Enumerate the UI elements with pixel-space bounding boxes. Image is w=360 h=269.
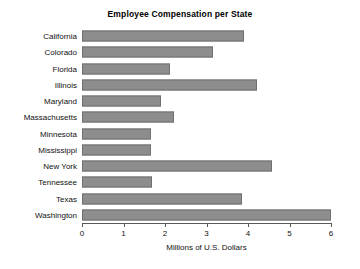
bar (82, 63, 170, 74)
category-label: Maryland (44, 97, 77, 106)
plot-area: CaliforniaColoradoFloridaIllinoisMarylan… (82, 28, 331, 223)
category-label: Washington (35, 210, 77, 219)
x-tick-mark (124, 223, 125, 227)
bar (82, 177, 152, 188)
bar-chart: Employee Compensation per State Californ… (0, 0, 360, 269)
bar-row: Mississippi (82, 142, 331, 158)
bar-row: Minnesota (82, 126, 331, 142)
category-label: Mississippi (38, 145, 77, 154)
category-label: Tennessee (38, 178, 77, 187)
category-label: Colorado (45, 48, 77, 57)
bar (82, 161, 272, 172)
bar (82, 47, 213, 58)
category-label: Minnesota (40, 129, 77, 138)
bar-row: New York (82, 158, 331, 174)
x-tick-label: 4 (246, 229, 250, 238)
x-tick-mark (331, 223, 332, 227)
x-tick-mark (165, 223, 166, 227)
category-label: Florida (53, 64, 77, 73)
x-tick-label: 2 (163, 229, 167, 238)
category-label: Texas (56, 194, 77, 203)
category-label: Massachusetts (24, 113, 77, 122)
bar-row: Maryland (82, 93, 331, 109)
x-tick-label: 5 (287, 229, 291, 238)
bar (82, 209, 331, 220)
bar-row: Tennessee (82, 174, 331, 190)
category-label: Illinois (55, 80, 77, 89)
category-label: California (43, 32, 77, 41)
x-tick-label: 3 (204, 229, 208, 238)
x-tick-label: 1 (121, 229, 125, 238)
category-label: New York (43, 162, 77, 171)
x-tick-mark (290, 223, 291, 227)
bar-row: Illinois (82, 77, 331, 93)
bar-row: Florida (82, 61, 331, 77)
bar (82, 193, 242, 204)
x-tick-mark (248, 223, 249, 227)
x-tick-mark (207, 223, 208, 227)
x-tick-label: 6 (329, 229, 333, 238)
bar-row: Washington (82, 207, 331, 223)
bar (82, 96, 161, 107)
bar-row: Colorado (82, 44, 331, 60)
bar (82, 79, 257, 90)
x-axis-title: Millions of U.S. Dollars (82, 243, 331, 252)
chart-title: Employee Compensation per State (0, 9, 360, 19)
bar-row: Texas (82, 191, 331, 207)
x-tick-label: 0 (80, 229, 84, 238)
x-tick-mark (82, 223, 83, 227)
bar (82, 31, 244, 42)
bar (82, 144, 151, 155)
bar (82, 128, 151, 139)
bar (82, 112, 174, 123)
bar-row: California (82, 28, 331, 44)
bar-row: Massachusetts (82, 109, 331, 125)
